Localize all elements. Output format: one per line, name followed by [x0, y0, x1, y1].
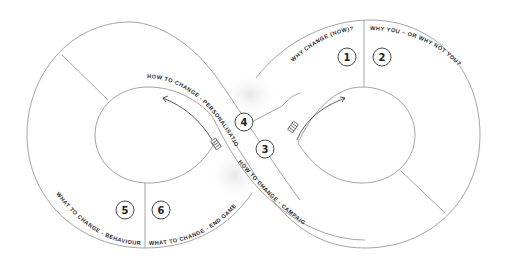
badge-5: 5	[116, 201, 134, 219]
svg-text:2: 2	[379, 52, 386, 63]
badge-6: 6	[152, 201, 170, 219]
infinity-diagram: WHY CHANGE (NOW)? WHY YOU – OR WHY NOT Y…	[0, 0, 505, 261]
svg-text:3: 3	[262, 144, 269, 155]
badge-3: 3	[256, 140, 274, 158]
ladder-icon-left	[211, 138, 222, 150]
band-edge-right-upper	[282, 93, 300, 106]
svg-text:1: 1	[344, 52, 351, 63]
badge-4: 4	[235, 113, 253, 131]
svg-text:5: 5	[122, 205, 129, 216]
crossing-shadow-top	[222, 73, 278, 117]
badge-2: 2	[373, 48, 391, 66]
svg-text:4: 4	[241, 117, 248, 128]
inner-left-hole	[95, 87, 215, 183]
badge-1: 1	[338, 48, 356, 66]
ladder-icon-right	[288, 121, 299, 133]
arrow-campaign	[297, 98, 345, 140]
divider-left-top	[62, 55, 108, 100]
inner-right-hole	[298, 87, 415, 183]
divider-right-bottom	[400, 170, 445, 213]
svg-text:6: 6	[158, 205, 165, 216]
